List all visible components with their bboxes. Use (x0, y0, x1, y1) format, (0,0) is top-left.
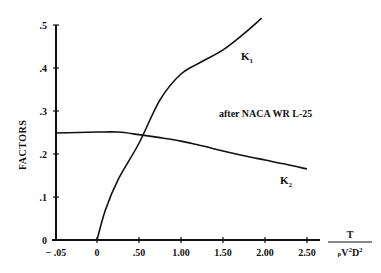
chart-canvas: 0.1.2.3.4.5 − .050.501.001.502.002.50 FA… (0, 0, 381, 273)
series-k1-label: K1 (241, 50, 254, 65)
x-tick-label: 2.00 (256, 247, 274, 258)
x-tick-label: 2.50 (298, 247, 316, 258)
y-tick-label: .1 (40, 192, 48, 203)
x-label-numerator: T (347, 229, 354, 240)
x-axis-label: T ρV2D2 (328, 229, 372, 258)
x-label-denominator: ρV2D2 (337, 246, 363, 258)
y-tick-label: 0 (42, 235, 47, 246)
series-k2-line (56, 132, 307, 169)
y-tick-label: .3 (40, 106, 48, 117)
x-tick-label: 1.00 (172, 247, 190, 258)
x-tick-label: 1.50 (214, 247, 232, 258)
x-tick-label: − .05 (46, 247, 67, 258)
source-annotation: after NACA WR L-25 (219, 108, 312, 119)
x-tick-label: 0 (95, 247, 100, 258)
series-k2-label: K2 (280, 174, 293, 189)
y-tick-label: .5 (40, 20, 48, 31)
y-tick-label: .2 (40, 149, 48, 160)
series-k1-line (97, 18, 262, 240)
y-axis-label: FACTORS (17, 120, 28, 170)
y-tick-label: .4 (40, 63, 48, 74)
x-tick-label: .50 (133, 247, 146, 258)
